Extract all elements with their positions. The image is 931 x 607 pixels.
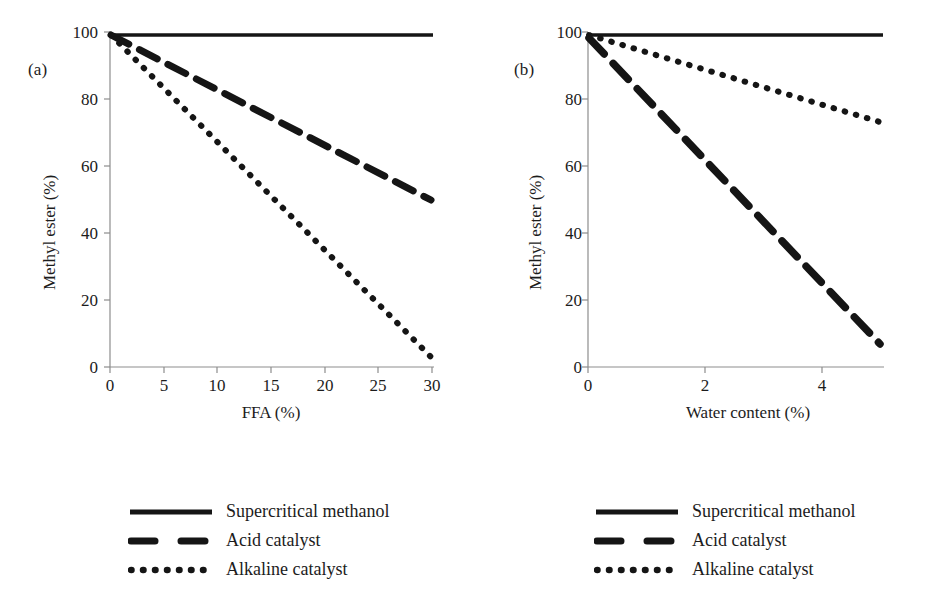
legend-swatch-dotted-icon bbox=[128, 560, 214, 580]
legend-item-acid-catalyst: Acid catalyst bbox=[128, 526, 458, 555]
legend-label: Alkaline catalyst bbox=[692, 559, 813, 580]
legend-swatch-solid-icon bbox=[594, 502, 680, 522]
legend-swatch-dotted-icon bbox=[594, 560, 680, 580]
series-acid-catalyst-a bbox=[111, 35, 431, 200]
figure-container: (a) Methyl ester (%) 0 20 40 60 80 100 0… bbox=[0, 0, 931, 607]
plot-area-a bbox=[0, 0, 465, 420]
legend-swatch-dashed-icon bbox=[594, 531, 680, 551]
legend-label: Alkaline catalyst bbox=[226, 559, 347, 580]
series-alkaline-catalyst-b bbox=[589, 35, 880, 122]
legend-swatch-solid-icon bbox=[128, 502, 214, 522]
legend-item-supercritical-methanol: Supercritical methanol bbox=[128, 497, 458, 526]
legend-item-supercritical-methanol: Supercritical methanol bbox=[594, 497, 924, 526]
chart-panel-a: (a) Methyl ester (%) 0 20 40 60 80 100 0… bbox=[0, 0, 465, 607]
series-acid-catalyst-b bbox=[589, 38, 880, 344]
legend-label: Supercritical methanol bbox=[226, 501, 389, 522]
legend-b: Supercritical methanol Acid catalyst Alk… bbox=[594, 497, 924, 584]
legend-a: Supercritical methanol Acid catalyst Alk… bbox=[128, 497, 458, 584]
legend-label: Acid catalyst bbox=[226, 530, 320, 551]
legend-item-alkaline-catalyst: Alkaline catalyst bbox=[594, 555, 924, 584]
legend-swatch-dashed-icon bbox=[128, 531, 214, 551]
legend-item-alkaline-catalyst: Alkaline catalyst bbox=[128, 555, 458, 584]
legend-label: Acid catalyst bbox=[692, 530, 786, 551]
series-alkaline-catalyst-a bbox=[111, 35, 431, 357]
chart-panel-b: (b) Methyl ester (%) 0 20 40 60 80 100 0… bbox=[466, 0, 931, 607]
legend-item-acid-catalyst: Acid catalyst bbox=[594, 526, 924, 555]
legend-label: Supercritical methanol bbox=[692, 501, 855, 522]
plot-area-b bbox=[466, 0, 931, 420]
